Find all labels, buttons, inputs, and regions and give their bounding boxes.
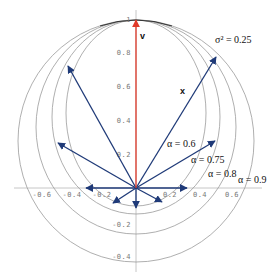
label-alpha-0.8: α = 0.8 (208, 168, 236, 179)
label-v: v (140, 31, 145, 41)
vector-left-mid (58, 143, 136, 188)
x-tick: 0.4 (193, 191, 207, 199)
vector-down-right (136, 188, 162, 202)
y-tick: 0.4 (117, 117, 131, 125)
y-tick: -0.4 (112, 253, 131, 261)
label-alpha-0.75: α = 0.75 (191, 154, 224, 165)
vector-down-left (113, 188, 136, 203)
y-tick: 1 (126, 16, 131, 24)
x-tick: 0.6 (225, 191, 239, 199)
ellipse-vector-diagram: -0.6 -0.4 -0.2 0.2 0.4 0.6 1 0.8 0.6 0.4… (0, 0, 274, 279)
x-tick: 0.2 (163, 191, 177, 199)
label-x: x (180, 86, 185, 96)
x-tick: -0.6 (33, 191, 52, 199)
vector-x (136, 57, 216, 188)
label-alpha-0.6: α = 0.6 (167, 138, 195, 149)
vector-group (58, 57, 216, 208)
label-sigma: σ² = 0.25 (215, 34, 252, 45)
label-alpha-0.9: α = 0.9 (238, 174, 266, 185)
y-tick: 0.8 (117, 49, 131, 57)
y-tick: -0.2 (112, 221, 131, 229)
y-tick: 0.6 (117, 83, 131, 91)
x-tick: -0.4 (63, 191, 82, 199)
x-tick: -0.2 (93, 191, 112, 199)
y-tick-labels: 1 0.8 0.6 0.4 0.2 -0.2 -0.4 (112, 16, 131, 261)
